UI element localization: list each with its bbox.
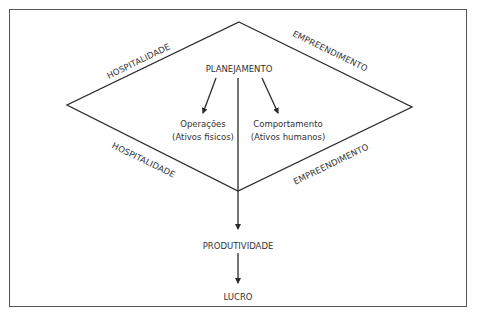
node-operacoes: Operações (Ativos fisicos) [163, 118, 243, 144]
node-planejamento: PLANEJAMENTO [196, 63, 282, 76]
node-operacoes-subtitle: (Ativos fisicos) [163, 131, 243, 144]
node-operacoes-title: Operações [163, 118, 243, 131]
diamond-shape [67, 22, 412, 191]
arrow-planejamento-to-comportamento [262, 78, 278, 113]
node-comportamento: Comportamento (Ativos humanos) [246, 118, 330, 144]
diagram-lines [0, 0, 477, 314]
node-comportamento-title: Comportamento [246, 118, 330, 131]
node-comportamento-subtitle: (Ativos humanos) [246, 131, 330, 144]
node-produtividade: PRODUTIVIDADE [193, 240, 283, 253]
arrow-planejamento-to-operacoes [203, 78, 216, 113]
node-lucro: LUCRO [213, 291, 263, 304]
